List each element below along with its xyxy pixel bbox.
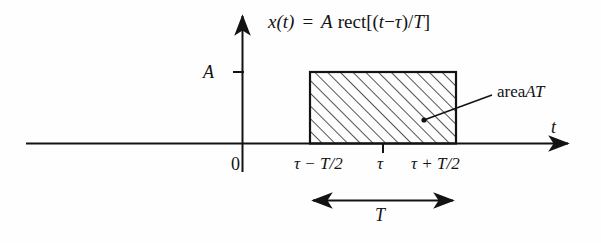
equation-equals: = — [302, 11, 313, 32]
area-leader-dot — [421, 117, 426, 122]
area-annotation-prefix: area — [497, 82, 525, 101]
x-tick-label-left-edge: τ − T/2 — [294, 155, 343, 172]
equation-open-bracket: [( — [366, 11, 379, 32]
y-axis-label-A: A — [203, 63, 214, 81]
area-annotation: areaAT — [497, 83, 545, 100]
equation-arg-tau: τ — [395, 11, 402, 32]
figure-canvas — [0, 0, 601, 243]
origin-label: 0 — [231, 155, 240, 173]
x-tick-label-center: τ — [377, 155, 383, 172]
equation-signal: x(t) — [268, 11, 294, 32]
equation-amplitude: A — [321, 11, 333, 32]
width-label: T — [375, 206, 385, 224]
equation-period: T — [413, 11, 424, 32]
equation-function-name: rect — [338, 11, 366, 32]
area-annotation-value: AT — [525, 82, 544, 101]
equation-close-bracket: ] — [424, 11, 430, 32]
x-axis-label-t: t — [551, 118, 556, 136]
rect-pulse-figure: x(t)=Arect[(t−τ)/T] A t 0 τ − T/2 τ τ + … — [0, 0, 601, 243]
equation-minus: − — [384, 11, 395, 32]
equation-label: x(t)=Arect[(t−τ)/T] — [268, 12, 430, 31]
rect-pulse — [310, 72, 456, 144]
x-tick-label-right-edge: τ + T/2 — [411, 155, 460, 172]
equation-slash: )/ — [402, 11, 414, 32]
